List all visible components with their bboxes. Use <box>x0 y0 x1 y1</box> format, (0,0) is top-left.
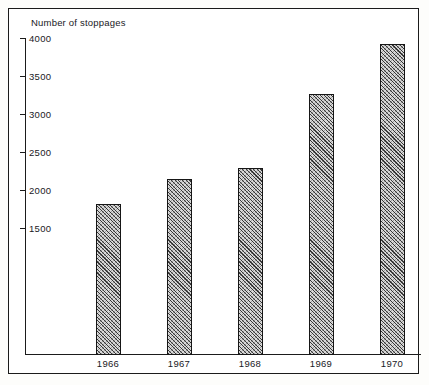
y-tick-mark-3500 <box>20 76 26 77</box>
y-tick-label-3000: 3000 <box>29 109 51 120</box>
y-tick-mark-2500 <box>20 152 26 153</box>
bar-1967 <box>167 179 192 355</box>
y-tick-mark-4000 <box>20 38 26 39</box>
y-tick-mark-1500 <box>20 228 26 229</box>
x-tick-label-1966: 1966 <box>97 358 119 369</box>
y-tick-label-1500: 1500 <box>29 223 51 234</box>
bar-1969 <box>309 94 334 355</box>
x-tick-label-1970: 1970 <box>381 358 403 369</box>
y-tick-mark-3000 <box>20 114 26 115</box>
x-tick-label-1968: 1968 <box>239 358 261 369</box>
y-axis-line <box>25 38 26 355</box>
y-tick-label-2000: 2000 <box>29 185 51 196</box>
x-axis-line <box>25 354 421 355</box>
y-tick-label-2500: 2500 <box>29 147 51 158</box>
figure-container: Number of stoppages 4000 3500 3000 2500 … <box>0 0 429 385</box>
x-tick-label-1969: 1969 <box>310 358 332 369</box>
bar-1968 <box>238 168 263 355</box>
bar-1970 <box>380 44 405 355</box>
y-tick-label-3500: 3500 <box>29 71 51 82</box>
bar-1966 <box>96 204 121 355</box>
plot-area: Number of stoppages 4000 3500 3000 2500 … <box>0 0 429 385</box>
x-tick-label-1967: 1967 <box>168 358 190 369</box>
y-axis-title: Number of stoppages <box>31 17 126 28</box>
y-tick-mark-2000 <box>20 190 26 191</box>
y-tick-label-4000: 4000 <box>29 33 51 44</box>
